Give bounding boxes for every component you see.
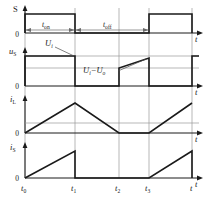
- zero-label-s: 0: [15, 30, 19, 39]
- interval-dimensions: ton toff: [26, 20, 149, 32]
- dim-arrow-ton-left: [26, 28, 32, 32]
- dim-arrow-ton-right: [69, 28, 75, 32]
- zero-label-il: 0: [15, 129, 19, 138]
- waveform-us: [25, 56, 199, 86]
- dim-arrow-toff-left: [76, 28, 82, 32]
- axis-label-il: iL: [10, 94, 16, 105]
- annotation-ui: Ui: [45, 38, 53, 49]
- waveform-il: [25, 103, 192, 133]
- axis-label-s: S: [13, 4, 18, 14]
- leader-ui-minus-uo: [118, 59, 146, 71]
- y-axis-arrow-s: [23, 5, 28, 11]
- zero-label-is: 0: [15, 174, 19, 183]
- axis-label-us: uS: [9, 46, 16, 57]
- t-axis-label-s: t: [195, 34, 198, 44]
- dim-label-ton: ton: [42, 20, 50, 30]
- t-axis-label-il: t: [195, 134, 198, 144]
- tick-label-t: t: [190, 183, 193, 193]
- tick-label-t0: t0: [21, 183, 26, 194]
- panel-inductor-current: iL 0 t: [10, 94, 203, 144]
- waveform-svg: S 0 t ton toff uS 0 t Ui: [0, 0, 212, 199]
- dim-label-toff: toff: [103, 20, 112, 30]
- panel-switch-current: iS 0 t: [10, 142, 203, 189]
- time-tick-labels: t0 t1 t2 t3 t: [21, 183, 193, 194]
- y-axis-arrow-us: [23, 47, 28, 53]
- t-axis-label-is: t: [195, 179, 198, 189]
- tick-label-t3: t3: [145, 183, 150, 194]
- axis-label-is: iS: [10, 142, 16, 153]
- panel-switch-voltage: uS 0 t Ui Ui−Uo: [9, 38, 203, 97]
- t-axis-arrow-is: [197, 176, 203, 181]
- leader-ui: [55, 47, 74, 56]
- annotation-ui-minus-uo: Ui−Uo: [83, 65, 106, 76]
- waveform-figure: S 0 t ton toff uS 0 t Ui: [0, 0, 212, 199]
- t-axis-arrow-us: [197, 84, 203, 89]
- zero-label-us: 0: [15, 82, 19, 91]
- dim-arrow-toff-right: [143, 28, 149, 32]
- tick-label-t1: t1: [71, 183, 76, 194]
- y-axis-arrow-is: [23, 142, 28, 148]
- t-axis-arrow-s: [197, 31, 203, 36]
- tick-label-t2: t2: [115, 183, 120, 194]
- t-axis-arrow-il: [197, 131, 203, 136]
- y-axis-arrow-il: [23, 95, 28, 101]
- waveform-is: [25, 151, 192, 178]
- t-axis-label-us: t: [195, 87, 198, 97]
